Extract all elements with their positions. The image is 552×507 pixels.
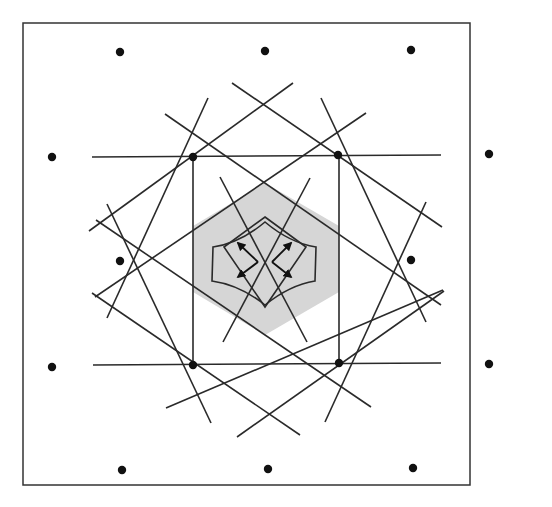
lattice-dot [118, 466, 126, 474]
lattice-dot [407, 256, 415, 264]
diagram-canvas [0, 0, 552, 507]
lattice-dot [335, 359, 343, 367]
lattice-dot [116, 48, 124, 56]
lattice-dot [334, 151, 342, 159]
lattice-dot [264, 465, 272, 473]
line-set [89, 83, 444, 437]
lattice-dot [409, 464, 417, 472]
line-segment [92, 155, 441, 157]
lattice-dot [48, 363, 56, 371]
lattice-dot [485, 360, 493, 368]
lattice-dot [485, 150, 493, 158]
lattice-dot [407, 46, 415, 54]
shaded-hexagon [193, 183, 339, 335]
lattice-dot [261, 47, 269, 55]
lattice-dot [189, 153, 197, 161]
lattice-dot [189, 361, 197, 369]
lattice-dot [116, 257, 124, 265]
lattice-dot [48, 153, 56, 161]
